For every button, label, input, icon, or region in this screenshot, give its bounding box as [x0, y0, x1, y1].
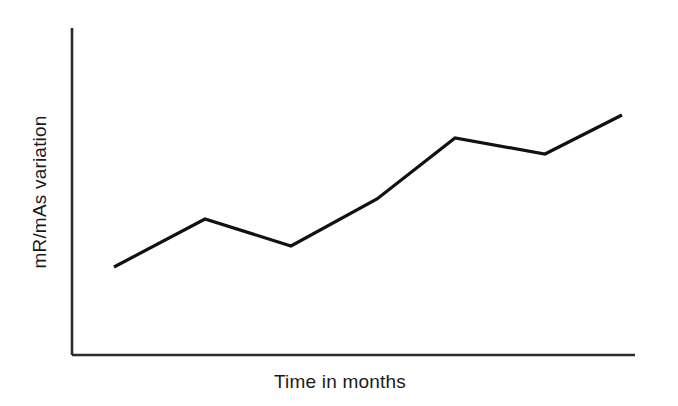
line-chart-canvas: Time in months mR/mAs variation: [0, 0, 678, 406]
y-axis-title: mR/mAs variation: [29, 115, 50, 268]
data-series-line: [114, 115, 622, 267]
x-axis-title: Time in months: [274, 371, 406, 392]
chart-figure: Time in months mR/mAs variation: [0, 0, 678, 406]
